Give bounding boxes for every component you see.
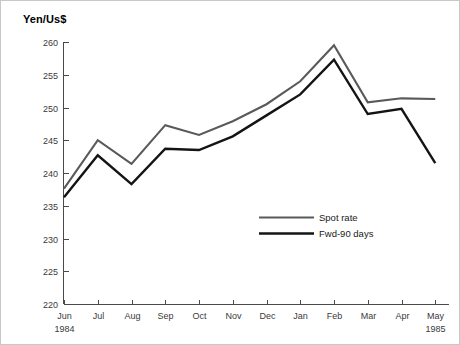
legend-label-1: Spot rate bbox=[319, 212, 358, 223]
x-tick-label: Dec bbox=[259, 311, 276, 321]
x-tick-label: Mar bbox=[361, 311, 377, 321]
x-tick-year-label: 1984 bbox=[54, 324, 74, 334]
x-tick-label: Jun bbox=[57, 311, 72, 321]
chart-legend: Spot rateFwd-90 days bbox=[259, 212, 374, 239]
data-series-group bbox=[64, 45, 435, 197]
series-line-fwd-90-days bbox=[64, 60, 435, 198]
x-tick-label: Sep bbox=[157, 311, 173, 321]
x-tick-label: May bbox=[427, 311, 445, 321]
y-tick-label: 250 bbox=[43, 104, 58, 114]
y-tick-labels: 220225230235240245250255260 bbox=[43, 38, 58, 310]
x-tick-label: Nov bbox=[225, 311, 242, 321]
y-tick-marks bbox=[64, 43, 69, 305]
y-axis: 220225230235240245250255260 bbox=[43, 38, 69, 310]
line-chart: 220225230235240245250255260 Jun1984JulAu… bbox=[1, 1, 460, 345]
chart-page: Yen/Us$ 220225230235240245250255260 Jun1… bbox=[0, 0, 460, 345]
y-tick-label: 235 bbox=[43, 202, 58, 212]
x-axis: Jun1984JulAugSepOctNovDecJanFebMarAprMay… bbox=[54, 300, 449, 335]
y-tick-label: 255 bbox=[43, 71, 58, 81]
x-tick-label: Apr bbox=[395, 311, 409, 321]
y-tick-label: 240 bbox=[43, 169, 58, 179]
y-tick-label: 220 bbox=[43, 300, 58, 310]
y-tick-label: 230 bbox=[43, 235, 58, 245]
x-tick-label: Jan bbox=[293, 311, 308, 321]
x-tick-year-label: 1985 bbox=[425, 324, 445, 334]
x-tick-label: Jul bbox=[93, 311, 105, 321]
y-tick-label: 260 bbox=[43, 38, 58, 48]
x-tick-label: Oct bbox=[192, 311, 207, 321]
x-tick-label: Feb bbox=[327, 311, 343, 321]
x-tick-labels: Jun1984JulAugSepOctNovDecJanFebMarAprMay… bbox=[54, 311, 445, 334]
y-tick-label: 245 bbox=[43, 136, 58, 146]
legend-label-2: Fwd-90 days bbox=[319, 228, 374, 239]
x-tick-label: Aug bbox=[124, 311, 140, 321]
y-tick-label: 225 bbox=[43, 267, 58, 277]
x-tick-marks bbox=[65, 300, 436, 305]
series-line-spot-rate bbox=[64, 45, 435, 188]
